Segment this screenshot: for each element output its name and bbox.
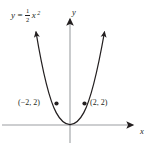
parabola-right-branch: [70, 32, 105, 125]
parabola-figure: y x y = 1 2 x 2 (−2, 2) (2, 2): [0, 0, 147, 145]
equation-variable: x: [32, 11, 36, 20]
y-axis-label: y: [72, 8, 76, 17]
point-marker-left: [54, 101, 58, 105]
fraction-denominator: 2: [25, 15, 30, 23]
equation-equals-sign: =: [18, 11, 23, 20]
point-label-right: (2, 2): [90, 99, 107, 107]
equation-label: y = 1 2 x 2: [11, 8, 40, 23]
equation-lhs: y: [11, 11, 15, 20]
fraction-numerator: 1: [25, 8, 30, 15]
x-axis-label: x: [140, 127, 144, 136]
equation-exponent: 2: [37, 10, 40, 16]
equation-fraction: 1 2: [25, 8, 30, 23]
point-marker-right: [82, 101, 86, 105]
point-label-left: (−2, 2): [18, 99, 40, 107]
parabola-left-branch: [36, 32, 70, 125]
